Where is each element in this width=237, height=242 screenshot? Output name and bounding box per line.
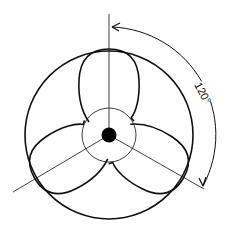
propeller-diagram: 120° [0, 0, 237, 242]
radial-line-right [109, 135, 204, 189]
center-lines [13, 14, 204, 192]
arrowhead-bottom [199, 177, 206, 186]
radial-line-left [13, 135, 109, 192]
hub [102, 128, 117, 143]
